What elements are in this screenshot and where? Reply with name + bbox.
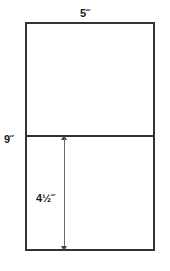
dimension-label-top-width: 5˝ <box>0 8 170 19</box>
horizontal-divider-line <box>25 135 155 137</box>
geometry-diagram: 5˝ 9˝ 4½˝ <box>0 0 170 271</box>
dimension-label-inner-height: 4½˝ <box>36 193 55 204</box>
arrow-down-icon <box>61 246 67 251</box>
dimension-label-left-height: 9˝ <box>4 134 14 145</box>
vertical-dimension-line <box>64 138 65 248</box>
